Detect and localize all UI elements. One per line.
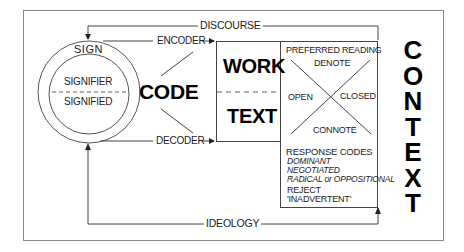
ideology-label: IDEOLOGY (204, 218, 261, 229)
denote-label: DENOTE (314, 59, 350, 68)
response-radical: RADICAL or OPPOSITIONAL (287, 175, 395, 184)
discourse-label: DISCOURSE (198, 20, 263, 31)
context-letter: E (402, 140, 424, 166)
closed-label: CLOSED (340, 92, 376, 101)
context-letter: N (402, 89, 424, 115)
signifier-label: SIGNIFIER (64, 77, 112, 87)
sign-title: SIGN (74, 44, 103, 55)
open-label: OPEN (288, 93, 313, 102)
ideology-arrow-icon (85, 143, 91, 150)
reject-inadvertent: 'INADVERTENT' (287, 195, 351, 204)
context-vertical-label: C O N T E X T (402, 38, 424, 217)
work-label: WORK (223, 56, 285, 76)
decoder-label: DECODER (156, 136, 205, 146)
connote-label: CONNOTE (313, 126, 357, 135)
code-label: CODE (139, 81, 198, 102)
signified-label: SIGNIFIED (64, 97, 112, 107)
context-letter: C (402, 38, 424, 64)
context-letter: T (402, 191, 424, 217)
sign-inner-circle (49, 54, 129, 134)
preferred-reading-title: PREFERRED READING (286, 46, 382, 55)
text-label: TEXT (227, 106, 277, 126)
encoder-label: ENCODER (157, 36, 206, 46)
ideology-arrow-start-icon (375, 207, 381, 214)
